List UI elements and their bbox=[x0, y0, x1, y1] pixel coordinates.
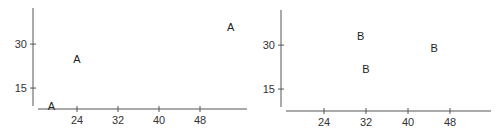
plot-b-canvas: 243240481530BBB bbox=[250, 0, 503, 136]
y-tick-label: 15 bbox=[15, 82, 27, 94]
x-tick-label: 24 bbox=[71, 114, 83, 126]
data-point-b: B bbox=[431, 42, 438, 54]
x-tick-label: 24 bbox=[318, 116, 330, 128]
x-tick-label: 40 bbox=[153, 114, 165, 126]
scatter-plot-b: 243240481530BBB bbox=[250, 0, 503, 136]
data-point-a: A bbox=[73, 53, 81, 65]
scatter-plot-a: 243240481530AAA bbox=[0, 0, 250, 136]
x-tick-label: 32 bbox=[360, 116, 372, 128]
x-tick-label: 48 bbox=[444, 116, 456, 128]
x-tick-label: 48 bbox=[194, 114, 206, 126]
data-point-a: A bbox=[227, 21, 235, 33]
data-point-b: B bbox=[357, 30, 364, 42]
x-tick-label: 32 bbox=[112, 114, 124, 126]
y-tick-label: 30 bbox=[15, 38, 27, 50]
y-tick-label: 15 bbox=[263, 83, 275, 95]
plot-a-canvas: 243240481530AAA bbox=[0, 0, 250, 136]
data-point-a: A bbox=[48, 100, 56, 112]
y-tick-label: 30 bbox=[263, 39, 275, 51]
x-tick-label: 40 bbox=[402, 116, 414, 128]
data-point-b: B bbox=[362, 63, 369, 75]
